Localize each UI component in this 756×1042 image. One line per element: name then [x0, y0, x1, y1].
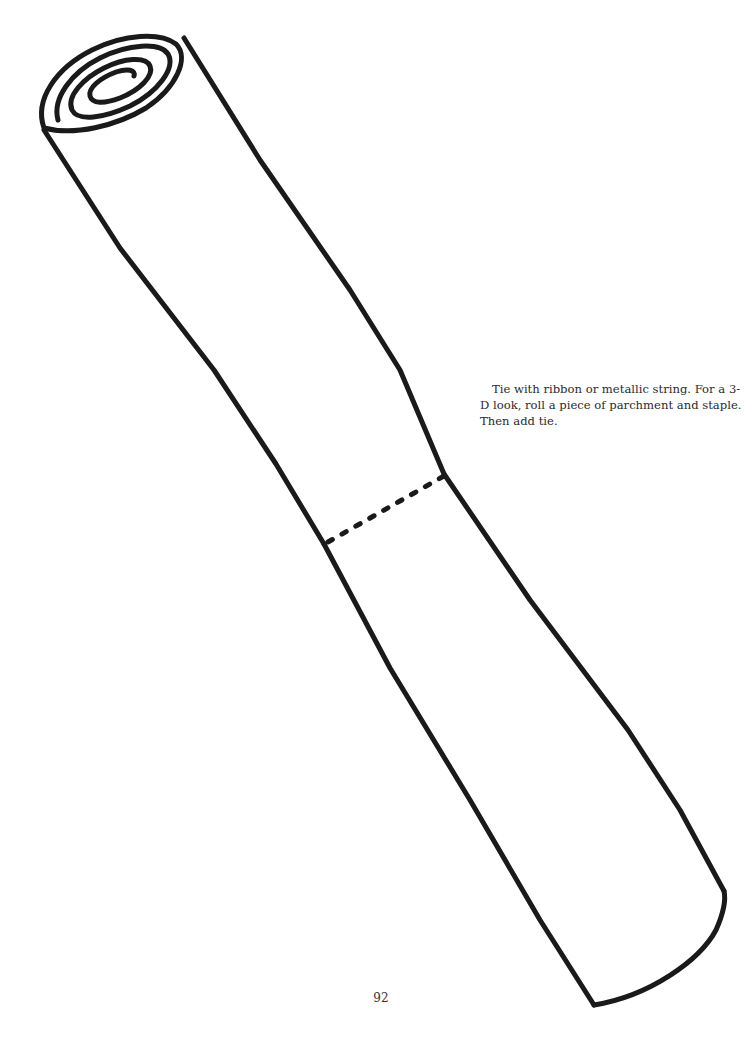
- scroll-left-edge-lower: [324, 544, 594, 1005]
- tie-dotted-line: [328, 476, 444, 542]
- scroll-illustration: [0, 0, 756, 1042]
- scroll-right-edge-upper: [184, 38, 444, 474]
- instruction-caption: Tie with ribbon or metallic string. For …: [480, 381, 742, 429]
- page-number: 92: [366, 991, 396, 1005]
- scroll-spiral-icon: [57, 46, 170, 120]
- scroll-bottom-curve: [594, 891, 725, 1005]
